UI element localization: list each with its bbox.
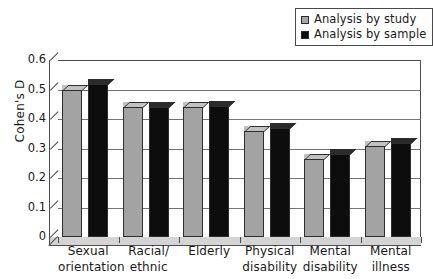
- y-tick-label: 0.5: [16, 84, 46, 96]
- bar-front-face: [88, 84, 108, 237]
- x-category-label-line: Mental: [361, 243, 422, 259]
- bar-front-face: [183, 107, 203, 237]
- bar-sample: [330, 149, 350, 237]
- bar-study: [123, 102, 143, 237]
- x-category-label-line: Mental: [300, 243, 361, 259]
- bar-study: [62, 85, 82, 238]
- x-axis-tick: [361, 237, 362, 243]
- x-category-label-line: disability: [240, 259, 301, 275]
- chart-legend: Analysis by study Analysis by sample: [295, 8, 433, 46]
- y-tick-label: 0.6: [16, 54, 46, 66]
- legend-swatch-sample-icon: [301, 31, 309, 39]
- x-axis-tick: [179, 237, 180, 243]
- bar-front-face: [330, 154, 350, 237]
- bars-layer: [58, 60, 421, 237]
- y-tick-label: 0.2: [16, 172, 46, 184]
- x-axis-category-labels: SexualorientationRacial/ethnicElderlyPhy…: [49, 243, 430, 279]
- bar-front-face: [62, 90, 82, 238]
- x-category-label-line: Sexual: [58, 243, 119, 259]
- bar-front-face: [391, 143, 411, 237]
- bar-front-face: [123, 107, 143, 237]
- legend-label-sample: Analysis by sample: [314, 27, 426, 42]
- y-axis-tick: [49, 90, 58, 99]
- y-axis-tick: [49, 149, 58, 158]
- x-category-label-line: Elderly: [179, 243, 240, 259]
- y-tick-label: 0.3: [16, 143, 46, 155]
- bar-front-face: [365, 146, 385, 237]
- x-axis-tick: [421, 237, 422, 243]
- x-axis-tick: [58, 237, 59, 243]
- bar-front-face: [270, 128, 290, 237]
- bar-sample: [149, 102, 169, 237]
- bar-study: [365, 141, 385, 237]
- x-category-label-line: ethnic: [119, 259, 180, 275]
- x-category-label: Elderly: [179, 243, 240, 259]
- x-category-label: Racial/ethnic: [119, 243, 180, 275]
- y-axis-tick: [49, 178, 58, 187]
- bar-front-face: [244, 131, 264, 237]
- y-tick-label: 0.1: [16, 202, 46, 214]
- bar-study: [183, 102, 203, 237]
- x-category-label-line: Physical: [240, 243, 301, 259]
- x-category-label-line: orientation: [58, 259, 119, 275]
- x-category-label: Sexualorientation: [58, 243, 119, 275]
- bar-sample: [209, 101, 229, 237]
- x-axis-tick: [119, 237, 120, 243]
- legend-entry-sample: Analysis by sample: [301, 27, 426, 42]
- bar-sample: [391, 138, 411, 237]
- y-axis-tick: [49, 119, 58, 128]
- y-axis-tick: [49, 60, 58, 69]
- bar-front-face: [149, 107, 169, 237]
- bar-study: [304, 154, 324, 237]
- legend-swatch-study-icon: [301, 16, 309, 24]
- bar-sample: [270, 123, 290, 237]
- y-axis-tick: [49, 208, 58, 217]
- x-category-label-line: Racial/: [119, 243, 180, 259]
- bar-sample: [88, 79, 108, 237]
- bar-front-face: [209, 106, 229, 237]
- x-category-label: Mentalillness: [361, 243, 422, 275]
- y-axis-tick-labels: 0.60.50.40.30.20.10: [12, 60, 46, 237]
- x-category-label-line: illness: [361, 259, 422, 275]
- x-axis-tick: [300, 237, 301, 243]
- bar-study: [244, 126, 264, 237]
- legend-label-study: Analysis by study: [314, 12, 416, 27]
- y-tick-label: 0.4: [16, 113, 46, 125]
- x-category-label-line: disability: [300, 259, 361, 275]
- x-axis-tick: [240, 237, 241, 243]
- x-category-label: Physicaldisability: [240, 243, 301, 275]
- bar-front-face: [304, 159, 324, 237]
- y-tick-label: 0: [16, 231, 46, 243]
- legend-entry-study: Analysis by study: [301, 12, 426, 27]
- x-category-label: Mentaldisability: [300, 243, 361, 275]
